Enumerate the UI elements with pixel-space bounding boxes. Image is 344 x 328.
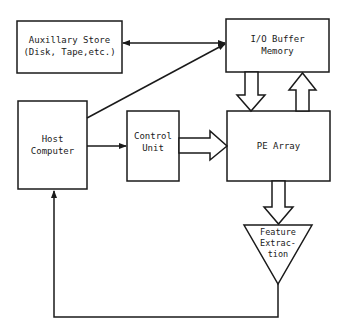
host-computer-label: Host Computer: [18, 133, 87, 157]
feature-extraction-label: Feature Extrac- tion: [250, 227, 306, 260]
control-unit-label: Control Unit: [127, 130, 179, 154]
control-pe-block-arrow: [179, 131, 227, 160]
pe-feature-block-arrow: [264, 181, 293, 224]
io-pe-block-arrow: [237, 72, 265, 111]
io-buffer-label: I/O Buffer Memory: [226, 33, 329, 57]
aux-store-label: Auxillary Store (Disk, Tape,etc.): [17, 34, 122, 58]
pe-array-label: PE Array: [227, 140, 330, 152]
feedback-line: [54, 191, 278, 317]
pe-io-block-arrow: [289, 73, 316, 111]
